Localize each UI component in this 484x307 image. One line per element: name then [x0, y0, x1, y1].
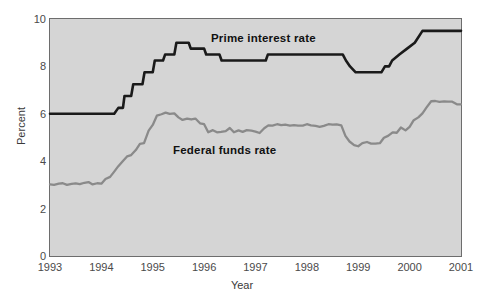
x-tick-1994: 1994	[77, 261, 125, 273]
y-tick-2: 2	[22, 204, 46, 214]
x-tick-1995: 1995	[129, 261, 177, 273]
y-tick-10: 10	[22, 14, 46, 24]
x-axis-tick-labels: 199319941995199619971998199920002001	[0, 261, 484, 281]
x-tick-1996: 1996	[180, 261, 228, 273]
chart-container: 1086420 Percent 199319941995199619971998…	[0, 0, 484, 307]
series-annotation-federal-funds: Federal funds rate	[173, 144, 276, 156]
x-axis-title: Year	[0, 279, 484, 291]
x-tick-1998: 1998	[283, 261, 331, 273]
x-tick-2001: 2001	[437, 261, 484, 273]
x-tick-1997: 1997	[232, 261, 280, 273]
series-annotation-prime: Prime interest rate	[211, 32, 316, 44]
series-layer	[50, 31, 461, 185]
y-axis-title: Percent	[15, 91, 27, 161]
x-tick-2000: 2000	[386, 261, 434, 273]
y-tick-8: 8	[22, 61, 46, 71]
x-tick-1999: 1999	[334, 261, 382, 273]
x-tick-1993: 1993	[26, 261, 74, 273]
y-tick-0: 0	[22, 251, 46, 261]
